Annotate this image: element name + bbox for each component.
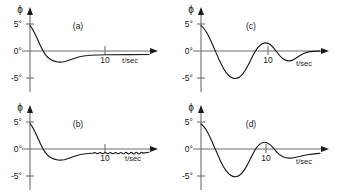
y-tick-label-5-a: 5° [14, 19, 22, 29]
plot-panel-b: ϕ 5° 0° -5° 10 t/sec (b) [0, 98, 170, 195]
x-axis-label-b: t/sec [125, 154, 141, 163]
panel-label-a: (a) [73, 21, 84, 31]
x-axis-arrow-d [321, 146, 329, 152]
y-axis-arrow-b [27, 105, 33, 113]
y-tick-label-neg5-b: -5° [11, 171, 22, 181]
y-axis-label-a: ϕ [17, 4, 23, 15]
x-tick-label-10-d: 10 [261, 153, 271, 163]
plot-panel-c: ϕ 5° 0° -5° 10 t/sec (c) [171, 0, 341, 97]
x-axis-label-d: t/sec [296, 157, 312, 166]
plot-panel-a: ϕ 5° 0° -5° 10 t/sec (a) [0, 0, 170, 97]
figure-four-damped-responses: ϕ 5° 0° -5° 10 t/sec (a) ϕ 5° 0° -5° [0, 0, 341, 195]
y-axis-arrow-c [198, 7, 204, 15]
x-tick-label-10-c: 10 [263, 55, 273, 65]
axes-d [193, 105, 329, 190]
x-axis-arrow-c [321, 48, 329, 54]
y-axis-arrow-a [27, 7, 33, 15]
x-axis-arrow-a [150, 48, 158, 54]
panel-label-c: (c) [246, 21, 256, 31]
y-axis-arrow-d [198, 105, 204, 113]
x-axis-label-c: t/sec [296, 59, 312, 68]
y-tick-label-neg5-a: -5° [11, 73, 22, 83]
y-tick-label-0-a: 0° [14, 46, 22, 56]
x-tick-label-10-a: 10 [100, 55, 110, 65]
y-tick-label-0-b: 0° [14, 144, 22, 154]
x-tick-label-10-b: 10 [100, 153, 110, 163]
panel-label-b: (b) [73, 119, 84, 129]
y-tick-label-0-c: 0° [185, 46, 193, 56]
x-axis-label-a: t/sec [122, 56, 138, 65]
y-tick-label-5-c: 5° [185, 19, 193, 29]
y-tick-label-neg5-d: -5° [182, 171, 193, 181]
y-tick-label-5-d: 5° [185, 117, 193, 127]
y-tick-label-5-b: 5° [14, 117, 22, 127]
plot-panel-d: ϕ 5° 0° -5° 10 t/sec (d) [171, 98, 341, 195]
y-axis-label-b: ϕ [17, 102, 23, 113]
y-axis-label-c: ϕ [188, 4, 194, 15]
axes-c [193, 7, 329, 92]
response-curve-c [201, 26, 320, 79]
x-axis-arrow-b [150, 146, 158, 152]
y-tick-label-neg5-c: -5° [182, 73, 193, 83]
response-curve-d [201, 124, 320, 177]
panel-label-d: (d) [246, 119, 257, 129]
y-axis-label-d: ϕ [188, 102, 194, 113]
y-tick-label-0-d: 0° [185, 144, 193, 154]
